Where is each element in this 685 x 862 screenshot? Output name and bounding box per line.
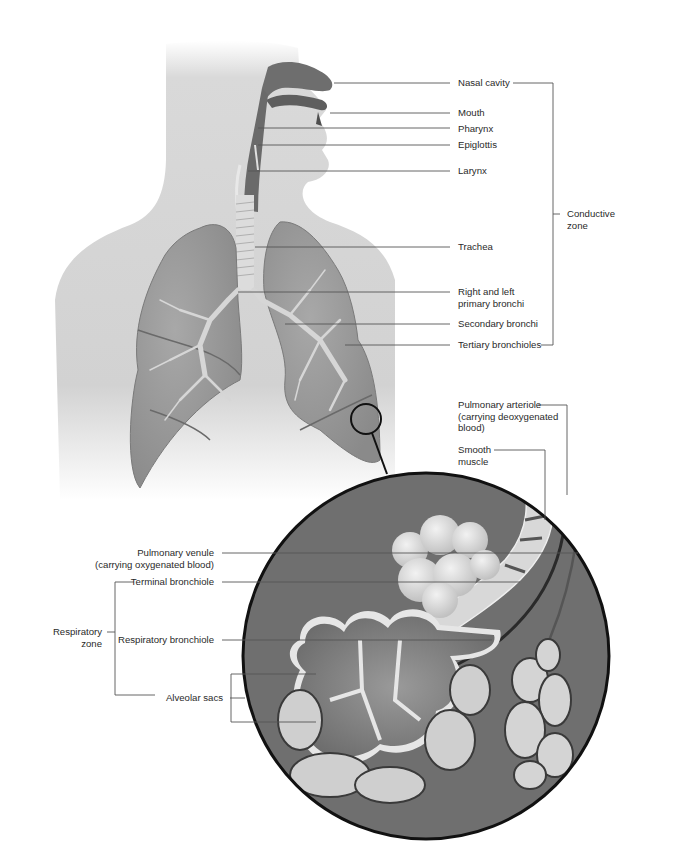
alveoli-inset: [243, 460, 609, 839]
label-trachea: Trachea: [458, 241, 493, 253]
label-tertiary-bronchioles: Tertiary bronchioles: [458, 339, 541, 351]
label-primary-bronchi: Right and left primary bronchi: [458, 286, 524, 309]
label-pulmonary-arteriole: Pulmonary arteriole (carrying deoxygenat…: [458, 399, 558, 434]
label-respiratory-zone: Respiratory zone: [53, 626, 102, 649]
label-larynx: Larynx: [458, 165, 487, 177]
label-pulmonary-venule-line1: Pulmonary venule: [95, 547, 214, 559]
respiratory-diagram: [0, 0, 685, 862]
label-smooth-muscle-line2: muscle: [458, 456, 491, 468]
label-pulmonary-arteriole-line1: Pulmonary arteriole: [458, 399, 558, 411]
label-smooth-muscle-line1: Smooth: [458, 444, 491, 456]
trachea: [236, 195, 254, 290]
label-terminal-bronchiole: Terminal bronchiole: [131, 576, 214, 588]
label-conductive-zone-line1: Conductive: [567, 208, 615, 220]
label-primary-bronchi-line2: primary bronchi: [458, 298, 524, 310]
label-respiratory-zone-line2: zone: [53, 638, 102, 650]
label-respiratory-bronchiole: Respiratory bronchiole: [118, 634, 214, 646]
label-epiglottis: Epiglottis: [458, 139, 497, 151]
label-conductive-zone-line2: zone: [567, 220, 615, 232]
label-pulmonary-arteriole-line3: blood): [458, 422, 558, 434]
label-pulmonary-arteriole-line2: (carrying deoxygenated: [458, 411, 558, 423]
label-pharynx: Pharynx: [458, 123, 493, 135]
label-respiratory-zone-line1: Respiratory: [53, 626, 102, 638]
label-pulmonary-venule-line2: (carrying oxygenated blood): [95, 559, 214, 571]
label-pulmonary-venule: Pulmonary venule (carrying oxygenated bl…: [95, 547, 214, 570]
label-smooth-muscle: Smooth muscle: [458, 444, 491, 467]
label-nasal-cavity: Nasal cavity: [458, 77, 510, 89]
label-primary-bronchi-line1: Right and left: [458, 286, 524, 298]
label-conductive-zone: Conductive zone: [567, 208, 615, 231]
label-mouth: Mouth: [458, 107, 485, 119]
label-alveolar-sacs: Alveolar sacs: [166, 692, 223, 704]
label-secondary-bronchi: Secondary bronchi: [458, 318, 538, 330]
